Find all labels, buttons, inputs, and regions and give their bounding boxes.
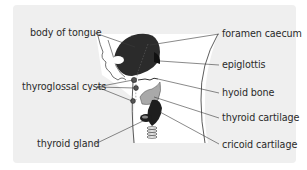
label-epiglottis: epiglottis (222, 59, 265, 70)
label-foramen-caecum: foramen caecum (222, 28, 302, 39)
thyroid-gland-highlight (142, 115, 148, 118)
label-thyroid-gland: thyroid gland (37, 138, 99, 149)
label-hyoid-bone: hyoid bone (222, 87, 274, 98)
label-cricoid-cartilage: cricoid cartilage (222, 139, 297, 150)
label-thyroglossal-cysts: thyroglossal cysts (22, 81, 106, 92)
label-thyroid-cartilage: thyroid cartilage (222, 112, 299, 123)
tongue-highlight (112, 56, 124, 64)
label-body-of-tongue: body of tongue (30, 27, 101, 38)
